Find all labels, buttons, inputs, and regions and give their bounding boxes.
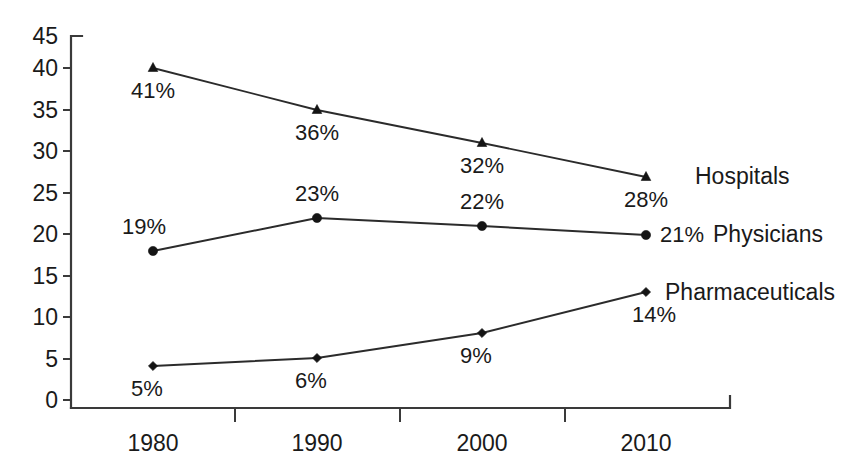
series-line-physicians <box>153 218 646 251</box>
y-tick-label-10: 10 <box>0 306 58 329</box>
y-tick-label-35: 35 <box>0 99 58 122</box>
series-label-pharmaceuticals: Pharmaceuticals <box>665 281 835 304</box>
y-tick-label-40: 40 <box>0 57 58 80</box>
data-label-physicians-2000: 22% <box>460 191 504 213</box>
data-label-pharmaceuticals-2000: 9% <box>460 345 492 367</box>
data-label-pharmaceuticals-1980: 5% <box>131 378 163 400</box>
x-tick-marks <box>235 408 565 422</box>
series-markers-pharmaceuticals <box>148 287 650 370</box>
series-line-pharmaceuticals <box>153 292 646 366</box>
y-tick-label-45: 45 <box>0 25 58 48</box>
data-label-hospitals-2010: 28% <box>624 189 668 211</box>
data-label-physicians-1980: 19% <box>122 216 166 238</box>
y-tick-label-0: 0 <box>0 389 58 412</box>
series-markers-physicians <box>148 213 650 255</box>
x-tick-label-1980: 1980 <box>127 432 178 455</box>
data-label-hospitals-2000: 32% <box>460 155 504 177</box>
data-label-hospitals-1990: 36% <box>295 122 339 144</box>
line-chart: 45 40 35 30 25 20 15 10 5 0 1980 1990 20… <box>0 0 844 472</box>
data-label-hospitals-1980: 41% <box>131 80 175 102</box>
x-tick-label-2010: 2010 <box>620 432 671 455</box>
data-label-pharmaceuticals-1990: 6% <box>295 370 327 392</box>
series-line-hospitals <box>153 68 646 177</box>
series-label-hospitals: Hospitals <box>695 165 790 188</box>
data-label-pharmaceuticals-2010: 14% <box>632 304 676 326</box>
y-tick-label-15: 15 <box>0 265 58 288</box>
x-tick-label-2000: 2000 <box>456 432 507 455</box>
y-tick-label-20: 20 <box>0 223 58 246</box>
data-label-physicians-2010: 21% <box>660 224 704 246</box>
y-tick-label-5: 5 <box>0 348 58 371</box>
y-axis <box>71 36 82 408</box>
series-label-physicians: Physicians <box>713 223 823 246</box>
data-label-physicians-1990: 23% <box>295 183 339 205</box>
x-tick-label-1990: 1990 <box>291 432 342 455</box>
x-axis <box>71 396 730 408</box>
y-tick-label-25: 25 <box>0 182 58 205</box>
y-tick-label-30: 30 <box>0 140 58 163</box>
